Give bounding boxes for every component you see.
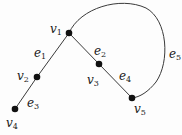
vertex-v4 <box>12 106 19 113</box>
edge-label-e5: e5 <box>169 48 181 62</box>
vertex-label-v3: v3 <box>87 74 99 88</box>
edge-e5-arc <box>69 3 165 98</box>
edge-label-e4: e4 <box>119 70 131 84</box>
edge-label-e1: e1 <box>34 47 46 61</box>
graph-edges-layer <box>0 0 182 135</box>
vertex-v1 <box>66 30 73 37</box>
vertex-v2 <box>34 74 41 81</box>
vertex-label-v4: v4 <box>6 117 18 131</box>
vertex-label-v2: v2 <box>17 70 29 84</box>
vertex-v5 <box>129 95 136 102</box>
edge-label-e3: e3 <box>27 97 39 111</box>
edge-label-e2: e2 <box>94 45 106 59</box>
vertex-v3 <box>96 61 103 68</box>
graph-diagram: v1 v2 v3 v4 v5 e1 e2 e3 e4 e5 <box>0 0 182 135</box>
vertex-label-v5: v5 <box>134 103 146 117</box>
vertex-label-v1: v1 <box>50 23 62 37</box>
